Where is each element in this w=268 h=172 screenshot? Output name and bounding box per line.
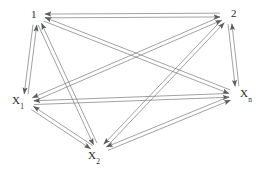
node-label-x2-subscript: 2 <box>96 157 100 166</box>
edge-n1-to-x2 <box>38 25 93 145</box>
node-label-xn-base: X <box>240 87 248 99</box>
node-label-x1-subscript: 1 <box>20 102 24 111</box>
edge-n2-to-x2 <box>104 20 222 144</box>
node-label-x1-base: X <box>12 94 20 106</box>
node-label-x2-base: X <box>88 149 96 161</box>
edge-n2-to-n1 <box>45 13 220 14</box>
edge-xn-to-x1 <box>34 93 229 100</box>
edge-xn-to-n2 <box>232 24 239 86</box>
node-label-1: 1 <box>31 9 37 20</box>
graph-diagram: 1 2 X1 Xn X2 <box>0 0 268 172</box>
node-label-x1: X1 <box>12 95 24 109</box>
graph-canvas <box>0 0 268 172</box>
node-label-x2: X2 <box>88 150 100 164</box>
edge-x1-to-n1 <box>28 25 37 94</box>
edge-n2-to-xn <box>228 24 235 86</box>
edge-x2-to-x1 <box>34 106 93 145</box>
node-label-2: 2 <box>231 8 237 19</box>
edge-x1-to-n2 <box>34 20 221 101</box>
edge-x2-to-n1 <box>42 23 97 143</box>
edge-n1-to-x1 <box>24 25 33 94</box>
node-label-xn-subscript: n <box>248 95 252 104</box>
edge-x2-to-xn <box>108 100 230 150</box>
edge-x1-to-xn <box>34 97 229 104</box>
node-label-xn: Xn <box>240 88 252 102</box>
edge-x1-to-x2 <box>31 110 90 149</box>
edge-layer <box>24 13 239 150</box>
edge-n1-to-n2 <box>45 17 220 18</box>
